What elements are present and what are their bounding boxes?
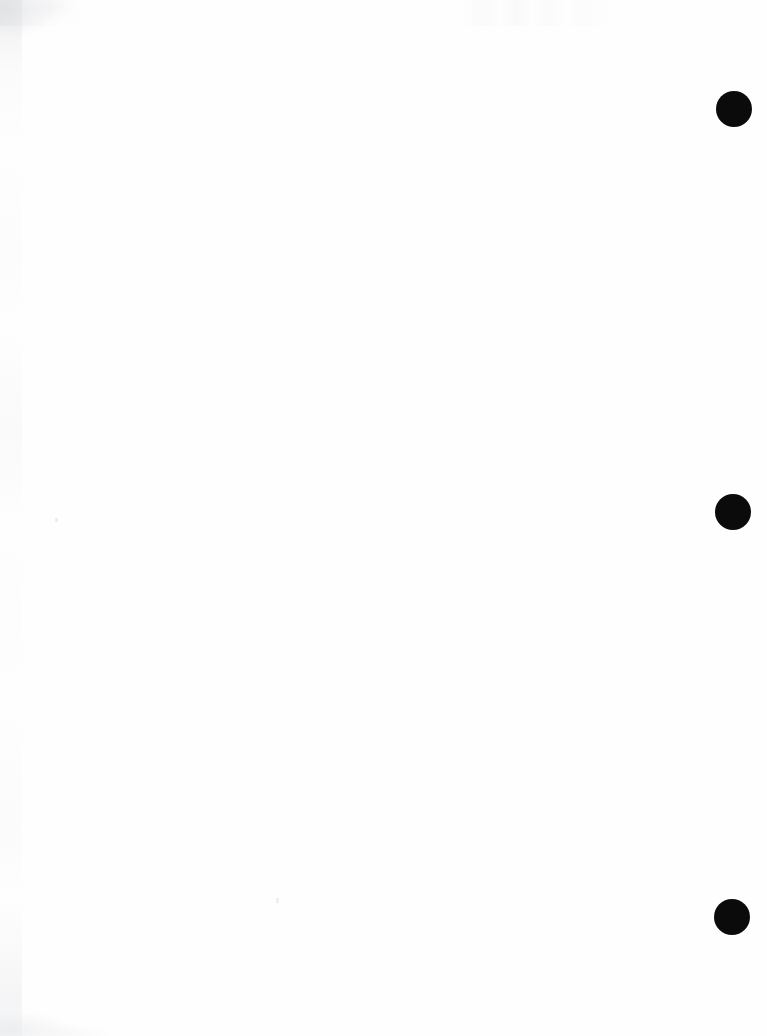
scanned-page: [0, 0, 767, 1036]
registration-mark-bottom: [714, 899, 750, 935]
registration-mark-middle: [715, 494, 751, 530]
registration-mark-top: [716, 91, 752, 127]
page-content-area: [40, 40, 690, 990]
